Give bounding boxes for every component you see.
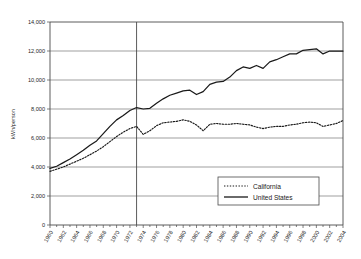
legend-box [218, 177, 319, 205]
legend-label-california: California [253, 183, 281, 190]
line-chart: 02,0004,0006,0008,00010,00012,00014,000 … [0, 0, 361, 259]
y-tick-label: 0 [42, 222, 45, 228]
x-tick-label: 1976 [149, 230, 160, 244]
x-tick-label: 2004 [336, 230, 347, 244]
x-tick-label: 1994 [269, 230, 280, 244]
x-tick-label: 1972 [123, 230, 134, 244]
x-tick-label: 1970 [109, 230, 120, 244]
y-tick-label: 8,000 [31, 106, 45, 112]
y-axis-label: kWh/person [10, 109, 16, 139]
x-tick-label: 1962 [56, 230, 67, 244]
y-tick-label: 6,000 [31, 135, 45, 141]
chart-legend: California United States [218, 177, 319, 205]
y-axis-ticks: 02,0004,0006,0008,00010,00012,00014,000 [28, 19, 50, 228]
x-tick-label: 1960 [43, 230, 54, 244]
x-tick-label: 1984 [202, 230, 213, 244]
series-line-united-states [50, 49, 343, 169]
series-line-california [50, 120, 343, 171]
x-tick-label: 1992 [256, 230, 267, 244]
x-tick-label: 1988 [229, 230, 240, 244]
x-tick-label: 1964 [69, 230, 80, 244]
x-axis-ticks: 1960196219641966196819701972197419761978… [43, 225, 347, 243]
x-tick-label: 2002 [322, 230, 333, 244]
y-tick-label: 14,000 [28, 19, 45, 25]
x-tick-label: 1982 [189, 230, 200, 244]
x-tick-label: 1966 [83, 230, 94, 244]
x-tick-label: 1978 [163, 230, 174, 244]
x-tick-label: 1998 [296, 230, 307, 244]
x-tick-label: 1968 [96, 230, 107, 244]
y-tick-label: 4,000 [31, 164, 45, 170]
x-tick-label: 1986 [216, 230, 227, 244]
x-tick-label: 1974 [136, 230, 147, 244]
y-tick-label: 12,000 [28, 48, 45, 54]
x-tick-label: 1996 [282, 230, 293, 244]
data-series [50, 49, 343, 172]
y-tick-label: 10,000 [28, 77, 45, 83]
legend-label-united-states: United States [253, 194, 293, 201]
y-axis-label-text: kWh/person [10, 109, 16, 139]
x-tick-label: 2000 [309, 230, 320, 244]
x-tick-label: 1990 [242, 230, 253, 244]
y-tick-label: 2,000 [31, 193, 45, 199]
chart-container: 02,0004,0006,0008,00010,00012,00014,000 … [0, 0, 361, 259]
x-tick-label: 1980 [176, 230, 187, 244]
